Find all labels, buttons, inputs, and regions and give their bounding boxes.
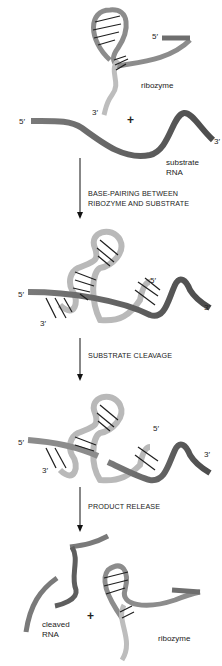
- substrate-5prime-label: 5′: [19, 117, 25, 126]
- ribozyme-3prime-label: 3′: [92, 108, 98, 117]
- complex-right-5prime: 5′: [150, 276, 156, 285]
- step-3-caption: PRODUCT RELEASE: [88, 502, 160, 512]
- cleaved-right-3prime: 3′: [204, 450, 210, 459]
- step-1-caption-line2: RIBOZYME AND SUBSTRATE: [88, 199, 189, 209]
- cleaved-left-3prime: 3′: [42, 466, 48, 475]
- step-arrow-1: [77, 158, 83, 219]
- ribozyme-substrate-complex: [28, 232, 210, 321]
- complex-left-3prime: 3′: [40, 319, 46, 328]
- complex-right-3prime: 3′: [204, 303, 210, 312]
- step-2-caption: SUBSTRATE CLEAVAGE: [88, 351, 172, 361]
- substrate-label-line1: substrate: [166, 158, 199, 167]
- plus-sign: +: [127, 113, 134, 127]
- cleaved-complex: [28, 397, 210, 481]
- substrate-label-line2: RNA: [166, 168, 183, 177]
- ribozyme-released: [104, 566, 200, 660]
- complex-left-5prime: 5′: [18, 290, 24, 299]
- substrate-3prime-label: 3′: [214, 137, 220, 146]
- ribozyme-initial: [93, 10, 190, 115]
- cleaved-right-5prime: 5′: [153, 424, 159, 433]
- cleaved-rna-label-line1: cleaved: [42, 620, 70, 629]
- step-arrow-2: [77, 338, 83, 381]
- ribozyme-5prime-label: 5′: [152, 32, 158, 41]
- step-arrow-3: [77, 487, 83, 532]
- cleaved-left-5prime: 5′: [18, 438, 24, 447]
- plus-sign-products: +: [87, 609, 94, 623]
- substrate-rna-initial: [31, 113, 213, 156]
- ribozyme-label: ribozyme: [141, 81, 173, 90]
- step-1-caption-line1: BASE-PAIRING BETWEEN: [88, 189, 178, 199]
- cleaved-rna-fragments: [26, 536, 108, 632]
- released-ribozyme-label: ribozyme: [158, 634, 190, 643]
- cleaved-rna-label-line2: RNA: [42, 630, 59, 639]
- ribozyme-diagram: [0, 0, 222, 666]
